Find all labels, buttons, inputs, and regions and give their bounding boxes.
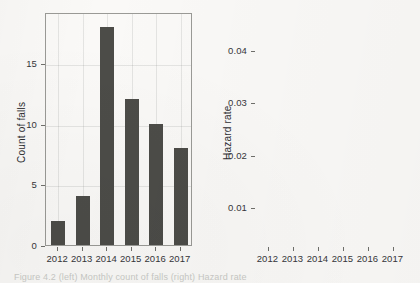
y-tick-mark xyxy=(41,185,45,186)
gridline-horizontal xyxy=(46,65,191,66)
figure-caption: Figure 4.2 (left) Monthly count of falls… xyxy=(14,272,410,283)
x-tick-mark xyxy=(106,247,107,251)
bar-chart-y-axis-title: Count of falls xyxy=(16,101,27,162)
y-tick-label-0.02: 0.02 xyxy=(213,150,247,161)
x-tick-label-2017: 2017 xyxy=(164,253,196,264)
y-tick-label-0: 0 xyxy=(9,240,37,251)
y-tick-label-0.03: 0.03 xyxy=(213,97,247,108)
x-tick-mark xyxy=(393,247,394,251)
x-tick-mark xyxy=(131,247,132,251)
bar-2014 xyxy=(100,27,114,245)
bar-chart-panel: Count of falls 051015 201220132014201520… xyxy=(0,0,210,283)
y-tick-mark xyxy=(251,156,255,157)
gridline-horizontal xyxy=(46,186,191,187)
x-tick-mark xyxy=(318,247,319,251)
y-tick-label-0.04: 0.04 xyxy=(213,45,247,56)
bar-2016 xyxy=(149,124,163,245)
y-tick-label-0.01: 0.01 xyxy=(213,202,247,213)
bar-2015 xyxy=(125,99,139,245)
x-tick-label-2017: 2017 xyxy=(377,253,409,264)
x-tick-mark xyxy=(293,247,294,251)
bar-chart-plot-frame xyxy=(45,13,192,246)
bar-2013 xyxy=(76,196,90,245)
gridline-vertical xyxy=(58,14,59,245)
y-tick-label-15: 15 xyxy=(9,58,37,69)
y-tick-mark xyxy=(251,51,255,52)
gridline-horizontal xyxy=(46,126,191,127)
bar-chart-plot-area xyxy=(46,14,191,245)
x-tick-mark xyxy=(155,247,156,251)
y-tick-mark xyxy=(41,246,45,247)
bar-2012 xyxy=(51,221,65,245)
y-tick-mark xyxy=(41,125,45,126)
x-tick-mark xyxy=(57,247,58,251)
figure-page: Count of falls 051015 201220132014201520… xyxy=(0,0,420,283)
line-chart-panel: Hazard rate 0.010.020.030.04 20122013201… xyxy=(210,0,420,283)
x-tick-mark xyxy=(368,247,369,251)
y-tick-label-10: 10 xyxy=(9,119,37,130)
x-tick-mark xyxy=(268,247,269,251)
y-tick-mark xyxy=(251,103,255,104)
x-tick-mark xyxy=(180,247,181,251)
x-tick-mark xyxy=(82,247,83,251)
x-tick-mark xyxy=(343,247,344,251)
y-tick-mark xyxy=(251,208,255,209)
y-tick-label-5: 5 xyxy=(9,179,37,190)
y-tick-mark xyxy=(41,64,45,65)
bar-2017 xyxy=(174,148,188,245)
